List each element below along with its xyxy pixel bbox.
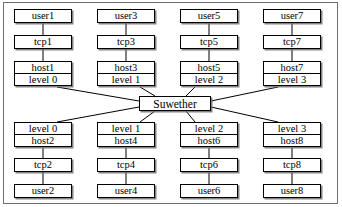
edge-level0-top-hub xyxy=(57,87,139,101)
node-user3[interactable]: user3 xyxy=(97,9,155,23)
edge-hub-level3-bottom xyxy=(211,107,278,122)
node-host6[interactable]: host6 xyxy=(180,134,238,147)
edge-level1-top-hub xyxy=(140,87,155,96)
node-tcp7[interactable]: tcp7 xyxy=(263,35,321,49)
node-level3-top[interactable]: level 3 xyxy=(263,73,321,86)
node-host3-stack[interactable]: host3 level 1 xyxy=(97,61,155,86)
node-user4[interactable]: user4 xyxy=(97,184,155,198)
node-host4-stack[interactable]: level 1 host4 xyxy=(97,122,155,147)
node-user8[interactable]: user8 xyxy=(263,184,321,198)
edge-level2-top-hub xyxy=(186,87,195,96)
node-host8-stack[interactable]: level 3 host8 xyxy=(263,122,321,147)
edge-hub-level1-bottom xyxy=(140,111,155,122)
node-tcp3[interactable]: tcp3 xyxy=(97,35,155,49)
node-tcp5[interactable]: tcp5 xyxy=(180,35,238,49)
diagram-canvas: user1 tcp1 host1 level 0 level 0 host2 t… xyxy=(0,0,342,207)
edge-hub-level2-bottom xyxy=(186,111,195,122)
node-tcp4[interactable]: tcp4 xyxy=(97,158,155,172)
node-user5[interactable]: user5 xyxy=(180,9,238,23)
node-host2-stack[interactable]: level 0 host2 xyxy=(14,122,72,147)
node-tcp1[interactable]: tcp1 xyxy=(14,35,72,49)
node-host8[interactable]: host8 xyxy=(263,134,321,147)
node-host6-stack[interactable]: level 2 host6 xyxy=(180,122,238,147)
node-host7-stack[interactable]: host7 level 3 xyxy=(263,61,321,86)
node-host1-stack[interactable]: host1 level 0 xyxy=(14,61,72,86)
node-tcp2[interactable]: tcp2 xyxy=(14,158,72,172)
edge-hub-level0-bottom xyxy=(57,107,139,122)
node-level2-top[interactable]: level 2 xyxy=(180,73,238,86)
node-user2[interactable]: user2 xyxy=(14,184,72,198)
node-host2[interactable]: host2 xyxy=(14,134,72,147)
node-level1-top[interactable]: level 1 xyxy=(97,73,155,86)
node-tcp8[interactable]: tcp8 xyxy=(263,158,321,172)
node-tcp6[interactable]: tcp6 xyxy=(180,158,238,172)
node-user7[interactable]: user7 xyxy=(263,9,321,23)
node-host4[interactable]: host4 xyxy=(97,134,155,147)
edge-level3-top-hub xyxy=(211,87,278,101)
node-user1[interactable]: user1 xyxy=(14,9,72,23)
node-suwether-hub[interactable]: Suwether xyxy=(139,96,211,111)
node-level0-top[interactable]: level 0 xyxy=(14,73,72,86)
node-host5-stack[interactable]: host5 level 2 xyxy=(180,61,238,86)
node-user6[interactable]: user6 xyxy=(180,184,238,198)
